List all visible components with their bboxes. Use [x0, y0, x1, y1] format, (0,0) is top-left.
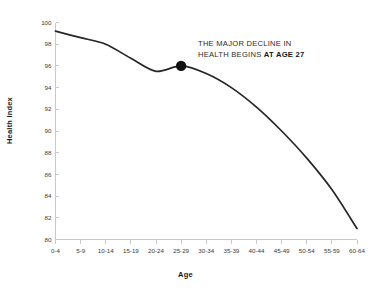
y-tick-label: 98: [45, 40, 52, 47]
x-tick-label: 45-49: [274, 247, 290, 254]
x-tick-label: 15-19: [123, 247, 139, 254]
x-tick-label: 40-44: [249, 247, 265, 254]
y-tick-label: 96: [45, 62, 52, 69]
x-tick-label: 20-24: [148, 247, 164, 254]
x-axis-ticks: 0-45-910-1415-1920-2425-2930-3435-3940-4…: [51, 240, 365, 255]
x-tick-label: 0-4: [51, 247, 61, 254]
x-tick-label: 35-39: [223, 247, 239, 254]
x-tick-label: 25-29: [173, 247, 189, 254]
age-27-marker-dot: [176, 61, 186, 71]
y-tick-label: 80: [45, 236, 52, 243]
x-tick-label: 5-9: [76, 247, 86, 254]
y-tick-label: 86: [45, 171, 52, 178]
y-axis-ticks: 80828486889092949698100: [41, 19, 59, 243]
y-tick-label: 82: [45, 214, 52, 221]
y-tick-label: 100: [41, 19, 52, 26]
y-tick-label: 90: [45, 127, 52, 134]
annotation-line-1: THE MAJOR DECLINE IN: [198, 38, 358, 49]
health-index-line: [56, 31, 358, 228]
x-tick-label: 30-34: [198, 247, 214, 254]
x-tick-label: 50-54: [299, 247, 315, 254]
y-tick-label: 94: [45, 84, 52, 91]
annotation-line-2: HEALTH BEGINS AT AGE 27: [198, 49, 358, 60]
annotation-line-2-regular: HEALTH BEGINS: [198, 50, 264, 59]
x-axis-title: Age: [0, 270, 371, 279]
annotation-major-decline: THE MAJOR DECLINE IN HEALTH BEGINS AT AG…: [198, 38, 358, 60]
x-tick-label: 10-14: [98, 247, 114, 254]
y-tick-label: 88: [45, 149, 52, 156]
x-tick-label: 60-64: [349, 247, 365, 254]
y-tick-label: 84: [45, 192, 52, 199]
x-tick-label: 55-59: [324, 247, 340, 254]
annotation-line-2-bold: AT AGE 27: [264, 50, 305, 59]
chart-page: Health Index 80828486889092949698100 0-4…: [0, 0, 371, 294]
y-tick-label: 92: [45, 105, 52, 112]
